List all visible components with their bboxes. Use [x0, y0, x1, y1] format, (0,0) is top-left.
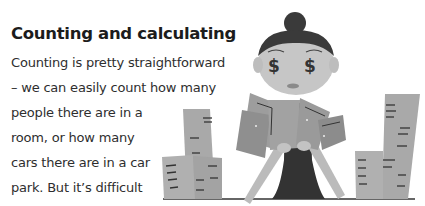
- money-woman-illustration: $ $: [160, 0, 425, 206]
- left-hand: [277, 143, 291, 153]
- lips: [287, 84, 299, 89]
- right-paper-stacks: [355, 94, 420, 199]
- right-hand: [297, 141, 311, 151]
- woman-figure: $ $: [236, 12, 346, 204]
- left-dollar-eye-icon: $: [268, 56, 280, 76]
- left-paper-stacks: [162, 109, 222, 199]
- right-dollar-eye-icon: $: [304, 56, 316, 76]
- banknotes-fan: [236, 93, 346, 158]
